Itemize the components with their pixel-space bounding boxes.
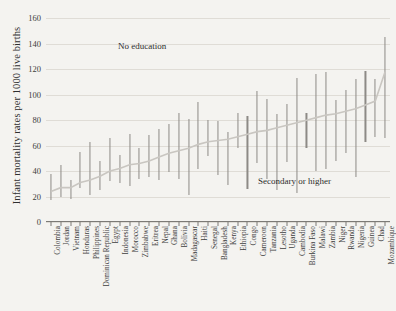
x-tick-label: Bolivia [181, 226, 189, 248]
gridline [46, 95, 390, 96]
range-bar [286, 104, 287, 163]
range-bar [227, 132, 228, 185]
x-tick-label: Cambodia [299, 226, 307, 256]
y-tick-label: 60 [33, 141, 42, 151]
range-bar [316, 74, 317, 171]
x-tick-label: Madagascar [191, 226, 199, 261]
y-tick-label: 140 [28, 39, 41, 49]
range-bar [70, 180, 71, 199]
x-tick-label: Ethiopia [240, 226, 248, 251]
range-bar [50, 174, 51, 201]
x-tick-label: Tanzania [270, 226, 278, 252]
x-tick-label: Colombia [54, 226, 62, 255]
x-tick-label: Ghana [171, 226, 179, 245]
y-tick-label: 20 [33, 192, 42, 202]
gridline [46, 18, 390, 19]
x-tick-label: Senegal [211, 226, 219, 249]
x-tick-label: Nepal [162, 226, 170, 243]
range-bar [188, 119, 189, 195]
range-bar [129, 134, 130, 186]
x-tick-label: Malawi [319, 226, 327, 248]
range-bar [198, 102, 199, 168]
range-bar [335, 100, 336, 161]
range-bar [158, 129, 159, 180]
y-tick-label: 80 [33, 115, 42, 125]
annotation-secondary-or-higher: Secondary or higher [258, 176, 331, 186]
range-bar [168, 124, 169, 172]
x-tick-label: Lesotho [280, 226, 288, 250]
x-tick-label: Jordan [63, 226, 71, 245]
y-tick-label: 120 [28, 64, 41, 74]
x-tick-label: Zimbabwe [142, 226, 150, 257]
y-tick-label: 160 [28, 13, 41, 23]
range-bar [139, 148, 140, 179]
range-bar [149, 135, 150, 177]
x-tick-label: Rwanda [348, 226, 356, 250]
x-tick-label: Kenya [230, 226, 238, 245]
range-bar [80, 152, 81, 188]
x-tick-label: Chad [378, 226, 386, 241]
range-bar [257, 91, 258, 164]
y-tick-label: 0 [37, 217, 41, 227]
x-tick-label: Haiti [201, 226, 209, 241]
range-bar [375, 79, 376, 136]
x-tick-label: Philippines [93, 226, 101, 259]
annotation-no-education: No education [118, 41, 166, 51]
range-bar [90, 142, 91, 195]
x-tick-label: Congo [250, 226, 258, 245]
x-tick-label: Cameroon [260, 226, 268, 256]
x-tick-label: Niger [339, 226, 347, 243]
range-bar [119, 155, 120, 183]
range-bar [306, 113, 307, 149]
range-bar [345, 90, 346, 154]
x-tick-label: Nigeria [358, 226, 366, 248]
y-tick-label: 100 [28, 90, 41, 100]
x-tick-label: Dominican Republic [103, 226, 111, 287]
x-tick-label: Bangladesh [221, 226, 229, 260]
x-tick-label: Zambia [329, 226, 337, 248]
range-bar [217, 121, 218, 174]
x-tick-label: Eritrea [152, 226, 160, 246]
x-tick-label: Burkina Faso [309, 226, 317, 265]
y-axis-title: Infant mortality rates per 1000 live bir… [11, 16, 22, 216]
x-tick-label: Indonesia [122, 226, 130, 254]
x-tick-label: Egypt [112, 226, 120, 243]
range-bar [99, 161, 100, 190]
plot-area: 020406080100120140160 [46, 12, 390, 222]
range-bar [385, 37, 386, 138]
x-axis-labels: ColombiaJordanVietnamHondurasPhilippines… [46, 226, 390, 311]
gridline [46, 197, 390, 198]
x-tick-label: Honduras [83, 226, 91, 254]
range-bar [178, 113, 179, 179]
range-bar [208, 120, 209, 156]
range-bar [355, 79, 356, 177]
x-tick-label: Uganda [289, 226, 297, 249]
range-bar [60, 165, 61, 197]
x-tick-label: Mozambique [388, 226, 396, 264]
y-tick-label: 40 [33, 166, 42, 176]
x-tick-label: Guinea [368, 226, 376, 247]
gridline [46, 44, 390, 45]
range-bar [237, 113, 238, 149]
gridline [46, 69, 390, 70]
x-tick-label: Vietnam [73, 226, 81, 251]
range-bar [326, 72, 327, 169]
range-bar [247, 116, 248, 189]
x-tick-label: Morocco [132, 226, 140, 252]
range-bar [365, 71, 366, 142]
range-bar [109, 138, 110, 181]
chart-figure: Infant mortality rates per 1000 live bir… [0, 0, 396, 311]
range-bar [267, 99, 268, 179]
